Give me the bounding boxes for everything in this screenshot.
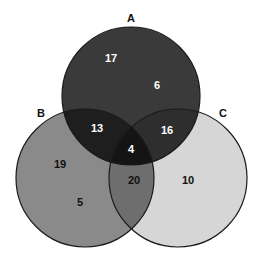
region-value-a-only-upper: 17 [105,52,117,64]
region-value-b-only-lower: 5 [77,196,83,208]
set-label-c: C [219,107,227,119]
region-value-b-and-c: 20 [128,174,140,186]
region-value-a-only-lower: 6 [154,79,160,91]
venn-svg: A B C 17 6 13 16 4 19 5 20 10 [0,0,262,263]
region-value-a-b-c: 4 [128,143,135,155]
region-value-c-only: 10 [182,174,194,186]
region-value-a-and-c: 16 [161,124,173,136]
set-label-b: B [37,107,45,119]
region-value-b-only-upper: 19 [54,158,66,170]
set-label-a: A [127,12,135,24]
venn-diagram: A B C 17 6 13 16 4 19 5 20 10 [0,0,262,263]
region-value-a-and-b: 13 [91,122,103,134]
